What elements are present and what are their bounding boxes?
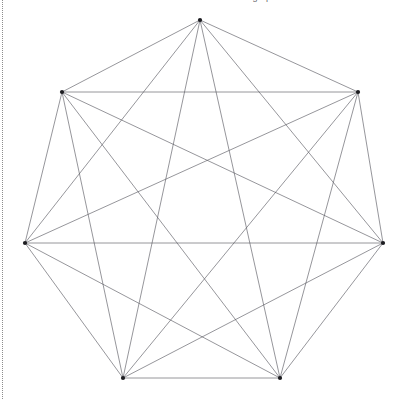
graph-edge	[123, 20, 200, 378]
graph-vertex	[381, 241, 385, 245]
graph-edge	[123, 243, 383, 378]
graph-edge	[200, 20, 358, 92]
graph-edge	[123, 92, 358, 378]
graph-vertex	[356, 90, 360, 94]
graph-edge	[25, 20, 200, 243]
graph-edge	[62, 20, 200, 92]
graph-edge	[25, 243, 280, 378]
graph-edge	[200, 20, 280, 378]
graph-edge	[25, 92, 62, 243]
graph-edge	[62, 92, 280, 378]
graph-edge	[62, 92, 383, 243]
graph-vertex	[198, 18, 202, 22]
graph-edge	[358, 92, 383, 243]
canvas-stage: Mathematica graphics	[0, 0, 399, 399]
graph-vertex	[278, 376, 282, 380]
vertex-layer	[23, 18, 385, 380]
graph-edge	[280, 243, 383, 378]
graph-edge	[62, 92, 123, 378]
graph-vertex	[23, 241, 27, 245]
graph-edge	[280, 92, 358, 378]
complete-graph-k7	[0, 0, 399, 399]
graph-edge	[25, 92, 358, 243]
graph-edge	[200, 20, 383, 243]
graph-vertex	[121, 376, 125, 380]
graph-vertex	[60, 90, 64, 94]
edge-layer	[25, 20, 383, 378]
